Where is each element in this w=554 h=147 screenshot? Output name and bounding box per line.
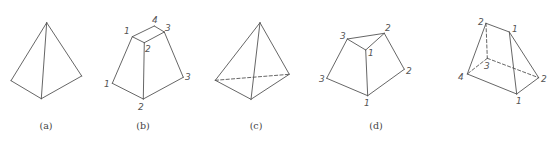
visible-edge-apex-left	[11, 23, 47, 81]
visible-edge-b1-b2	[112, 83, 143, 99]
visible-edge-t3-t2	[144, 32, 164, 43]
visible-edge-b1-b2	[517, 78, 539, 94]
vertex-label: 2	[406, 66, 412, 76]
visible-edge-t2-t1	[132, 37, 144, 43]
visible-edge-b1-b2	[368, 69, 405, 95]
visible-edge-t2-t1	[486, 23, 509, 32]
visible-edge-t3-b3	[327, 39, 348, 78]
visible-edge-bottom-right	[41, 76, 81, 99]
vertex-label: 3	[165, 23, 171, 33]
figure-caption-c: (c)	[250, 120, 263, 131]
vertex-label: 1	[364, 98, 370, 108]
visible-edge-t1-t4	[132, 26, 154, 37]
figure-a: (a)	[11, 23, 82, 131]
visible-edge-b3-b1	[327, 78, 368, 95]
vertex-label: 1	[516, 96, 522, 106]
vertex-label: 1	[124, 26, 130, 36]
visible-edge-bottom-right	[251, 74, 289, 99]
vertex-label: 2	[541, 74, 547, 84]
figure-caption-b: (b)	[136, 120, 150, 131]
figure-caption-a: (a)	[39, 120, 52, 131]
visible-edge-apex-bottom	[251, 23, 260, 100]
hidden-edge-t2-b3	[486, 23, 487, 58]
visible-edge-b2-b3	[143, 77, 183, 99]
vertex-label: 2	[478, 17, 484, 27]
visible-edge-t1-t3	[347, 39, 365, 50]
visible-edge-apex-left	[215, 23, 260, 81]
figure-b: 1432123(b)	[104, 15, 191, 131]
vertex-label: 1	[512, 24, 518, 34]
visible-edge-apex-right	[260, 23, 289, 75]
visible-edge-t4-t3	[154, 26, 164, 32]
vertex-label: 1	[368, 48, 374, 58]
vertex-label: 3	[340, 31, 346, 41]
vertex-label: 2	[138, 102, 144, 112]
visible-edge-t3-b3	[164, 32, 183, 77]
visible-edge-apex-right	[47, 23, 82, 76]
figures-layer: (a)1432123(b)(c)321312(d)214312	[11, 15, 547, 131]
figure-c: (c)	[215, 23, 289, 131]
vertex-label: 4	[152, 15, 158, 25]
visible-edge-apex-bottom	[41, 23, 46, 99]
vertex-label: 3	[484, 61, 490, 71]
visible-edge-left-bottom	[11, 81, 41, 99]
figure-d: 321312(d)	[319, 23, 412, 131]
polyhedra-diagram: (a)1432123(b)(c)321312(d)214312	[0, 0, 554, 147]
vertex-label: 2	[145, 44, 151, 54]
figure-e: 214312	[458, 17, 547, 106]
visible-edge-left-bottom	[215, 80, 251, 99]
visible-edge-t2-b2	[384, 33, 404, 69]
vertex-label: 1	[104, 79, 110, 89]
hidden-edge-left-right	[215, 74, 289, 80]
vertex-label: 3	[319, 74, 325, 84]
visible-edge-t1-b1	[112, 37, 132, 84]
visible-edge-b4-b1	[467, 74, 516, 94]
figure-caption-d: (d)	[369, 120, 383, 131]
vertex-label: 2	[385, 23, 391, 33]
vertex-label: 4	[458, 72, 464, 82]
vertex-label: 3	[185, 72, 191, 82]
